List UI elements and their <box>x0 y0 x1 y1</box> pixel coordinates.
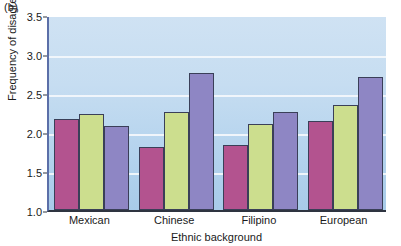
bar <box>333 105 358 210</box>
bar <box>273 112 298 210</box>
bar <box>189 73 214 210</box>
bar <box>79 114 104 210</box>
y-tick-label: 2.5 <box>27 89 42 101</box>
bar <box>223 145 248 210</box>
x-tick-label: Chinese <box>154 214 194 226</box>
bar <box>139 147 164 210</box>
x-axis-tick-labels: MexicanChineseFilipinoEuropean <box>47 214 386 230</box>
y-tick-label: 3.5 <box>27 11 42 23</box>
y-tick-label: 2.0 <box>27 128 42 140</box>
gridline <box>49 95 386 97</box>
bar <box>358 77 383 210</box>
plot-area <box>47 17 386 212</box>
y-tick-label: 3.0 <box>27 50 42 62</box>
y-tick-label: 1.5 <box>27 167 42 179</box>
y-tick-label: 1.0 <box>27 206 42 218</box>
x-axis-title: Ethnic background <box>47 231 386 243</box>
y-axis-title: Frequency of disagreement <box>6 0 18 134</box>
bar <box>308 121 333 210</box>
figure-panel-b: (b) 1.01.52.02.53.03.5 Frequency of disa… <box>0 0 401 246</box>
bar <box>248 124 273 210</box>
x-tick-label: Mexican <box>69 214 110 226</box>
x-tick-label: Filipino <box>241 214 276 226</box>
x-tick-label: European <box>320 214 368 226</box>
bar <box>54 119 79 210</box>
bar <box>164 112 189 210</box>
gridline <box>49 56 386 58</box>
bar <box>104 126 129 210</box>
